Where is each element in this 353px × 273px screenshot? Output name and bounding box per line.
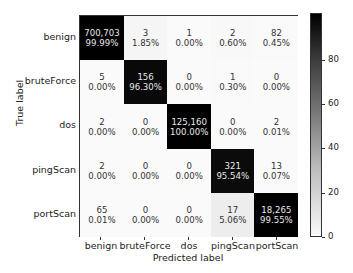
cell-percentage: 0.00%: [132, 127, 159, 137]
matrix-cell: 00.00%: [124, 104, 168, 148]
cell-percentage: 0.07%: [263, 171, 290, 181]
matrix-cell: 20.00%: [80, 104, 124, 148]
cell-count: 156: [137, 72, 153, 82]
y-tick-bruteforce: bruteForce: [25, 75, 76, 86]
cell-percentage: 0.00%: [88, 171, 115, 181]
cell-count: 700,703: [84, 28, 120, 38]
matrix-cell: 32195.54%: [211, 149, 255, 193]
y-tick-benign: benign: [43, 31, 76, 42]
cell-percentage: 5.06%: [219, 215, 246, 225]
cell-count: 17: [227, 205, 238, 215]
cell-count: 0: [230, 117, 235, 127]
cell-percentage: 99.55%: [260, 215, 293, 225]
cell-count: 0: [143, 161, 148, 171]
colorbar-tick: 40: [328, 142, 339, 152]
cell-percentage: 0.00%: [176, 38, 203, 48]
cell-percentage: 0.30%: [219, 82, 246, 92]
cell-percentage: 99.99%: [86, 38, 119, 48]
x-tick-bruteforce: bruteForce: [119, 240, 170, 251]
cell-percentage: 96.30%: [129, 82, 162, 92]
cell-percentage: 0.00%: [88, 82, 115, 92]
y-tick-dos: dos: [59, 119, 76, 130]
cell-percentage: 1.85%: [132, 38, 159, 48]
cell-count: 18,265: [261, 205, 291, 215]
cell-percentage: 0.00%: [88, 127, 115, 137]
matrix-cell: 175.06%: [211, 193, 255, 237]
matrix-cell: 00.00%: [124, 149, 168, 193]
colorbar-tick: 20: [328, 187, 339, 197]
cell-percentage: 0.00%: [263, 82, 290, 92]
cell-percentage: 100.00%: [170, 127, 208, 137]
cell-count: 0: [186, 205, 191, 215]
matrix-cell: 20.00%: [80, 149, 124, 193]
matrix-cell: 00.00%: [167, 60, 211, 104]
matrix-cell: 00.00%: [211, 104, 255, 148]
cell-percentage: 0.45%: [263, 38, 290, 48]
matrix-cell: 820.45%: [254, 16, 298, 60]
cell-count: 1: [186, 28, 191, 38]
x-axis-label: Predicted label: [153, 252, 224, 263]
colorbar-tick: 80: [328, 54, 339, 64]
cell-count: 0: [274, 72, 279, 82]
cell-percentage: 0.00%: [176, 215, 203, 225]
cell-percentage: 0.00%: [176, 82, 203, 92]
matrix-cell: 31.85%: [124, 16, 168, 60]
confusion-matrix: 700,70399.99%31.85%10.00%20.60%820.45%50…: [79, 15, 298, 237]
colorbar-tick: 0: [328, 231, 333, 241]
y-tick-pingscan: pingScan: [32, 164, 76, 175]
x-tick-pingscan: pingScan: [211, 240, 255, 251]
colorbar: [310, 13, 322, 237]
matrix-cell: 130.07%: [254, 149, 298, 193]
colorbar-tick: 60: [328, 98, 339, 108]
matrix-cell: 15696.30%: [124, 60, 168, 104]
cell-count: 0: [143, 117, 148, 127]
x-tick-dos: dos: [181, 240, 198, 251]
cell-count: 1: [230, 72, 235, 82]
cell-percentage: 0.01%: [263, 127, 290, 137]
cell-count: 321: [225, 161, 241, 171]
cell-count: 5: [99, 72, 104, 82]
matrix-cell: 00.00%: [254, 60, 298, 104]
y-tick-portscan: portScan: [33, 208, 76, 219]
x-tick-portscan: portScan: [256, 240, 299, 251]
cell-percentage: 0.00%: [219, 127, 246, 137]
cell-percentage: 0.60%: [219, 38, 246, 48]
cell-count: 0: [186, 72, 191, 82]
x-tick-benign: benign: [85, 240, 118, 251]
cell-percentage: 95.54%: [216, 171, 249, 181]
cell-percentage: 0.00%: [132, 171, 159, 181]
matrix-cell: 50.00%: [80, 60, 124, 104]
matrix-cell: 650.01%: [80, 193, 124, 237]
cell-count: 2: [230, 28, 235, 38]
matrix-cell: 00.00%: [167, 149, 211, 193]
matrix-cell: 18,26599.55%: [254, 193, 298, 237]
matrix-cell: 700,70399.99%: [80, 16, 124, 60]
matrix-cell: 10.30%: [211, 60, 255, 104]
matrix-cell: 00.00%: [167, 193, 211, 237]
matrix-cell: 10.00%: [167, 16, 211, 60]
matrix-cell: 125,160100.00%: [167, 104, 211, 148]
cell-count: 2: [99, 161, 104, 171]
matrix-cell: 20.01%: [254, 104, 298, 148]
cell-count: 65: [97, 205, 108, 215]
matrix-cell: 00.00%: [124, 193, 168, 237]
cell-count: 0: [186, 161, 191, 171]
cell-percentage: 0.00%: [176, 171, 203, 181]
y-axis-label: True label: [14, 80, 25, 126]
cell-count: 125,160: [171, 117, 207, 127]
cell-count: 82: [271, 28, 282, 38]
cell-count: 2: [99, 117, 104, 127]
cell-percentage: 0.00%: [132, 215, 159, 225]
cell-count: 2: [274, 117, 279, 127]
cell-count: 0: [143, 205, 148, 215]
cell-percentage: 0.01%: [88, 215, 115, 225]
cell-count: 3: [143, 28, 148, 38]
matrix-cell: 20.60%: [211, 16, 255, 60]
cell-count: 13: [271, 161, 282, 171]
